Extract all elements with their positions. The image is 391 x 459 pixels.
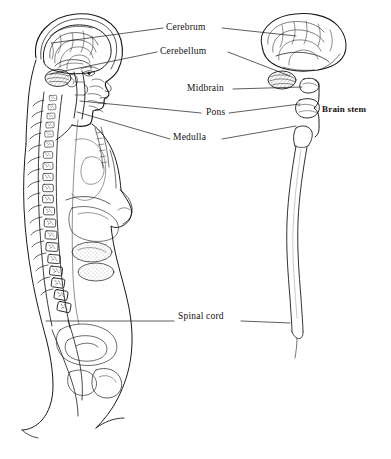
label-cerebellum: Cerebellum (160, 47, 206, 57)
label-medulla: Medulla (173, 133, 206, 143)
right-exploded-brain (261, 13, 346, 358)
label-pons: Pons (206, 108, 225, 118)
left-body-sagittal-section (22, 14, 132, 438)
label-spinal-cord: Spinal cord (178, 312, 224, 322)
label-midbrain: Midbrain (187, 84, 224, 94)
label-brain-stem: Brain stem (322, 105, 366, 114)
cns-anatomy-figure: Cerebrum Cerebellum Midbrain Pons Medull… (0, 0, 391, 459)
label-cerebrum: Cerebrum (166, 23, 206, 33)
anatomy-illustration (0, 0, 391, 459)
